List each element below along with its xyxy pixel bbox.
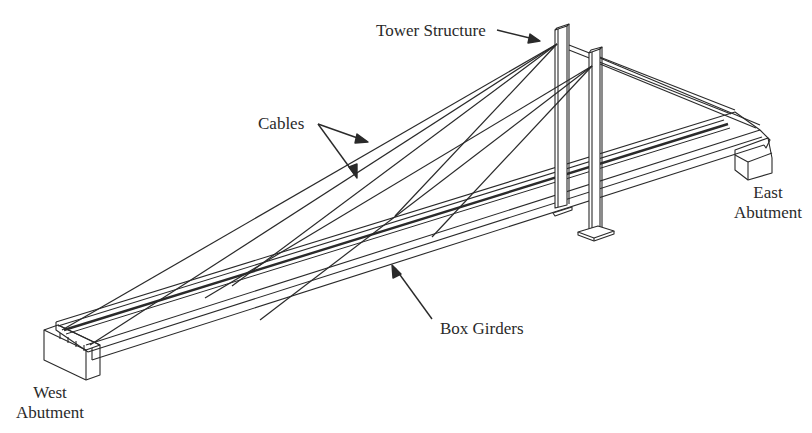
- label-cables: Cables: [258, 114, 304, 134]
- tower-front: [578, 47, 614, 241]
- bridge-drawing: [0, 0, 812, 433]
- label-east-abutment: East Abutment: [733, 183, 803, 223]
- label-west-line1: West: [14, 383, 86, 403]
- label-west-line2: Abutment: [14, 403, 86, 423]
- label-tower-structure: Tower Structure: [376, 21, 486, 41]
- cables-front-tower: [205, 66, 592, 320]
- label-east-line1: East: [733, 183, 803, 203]
- label-box-girders: Box Girders: [440, 319, 524, 339]
- box-girders: [56, 112, 770, 360]
- bridge-diagram: Tower Structure Cables Box Girders East …: [0, 0, 812, 433]
- label-east-line2: Abutment: [733, 203, 803, 223]
- label-west-abutment: West Abutment: [14, 383, 86, 423]
- tower-back: [555, 24, 569, 208]
